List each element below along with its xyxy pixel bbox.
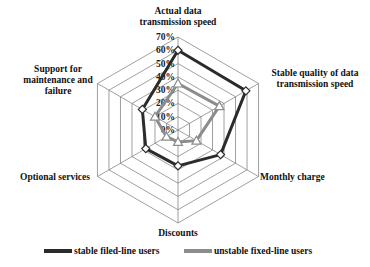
axis-label-line: maintenance and (18, 75, 98, 86)
axis-label-monthly-charge: Monthly charge (260, 172, 340, 183)
svg-text:60%: 60% (156, 45, 175, 55)
axis-label-line: transmission speed (128, 17, 228, 28)
axis-label-discounts: Discounts (148, 228, 208, 239)
axis-label-line: failure (18, 86, 98, 97)
legend: stable filed-line users unstable fixed-l… (0, 246, 370, 260)
axis-label-line: Monthly charge (260, 172, 340, 183)
axis-label-line: Support for (18, 64, 98, 75)
legend-item-stable: stable filed-line users (44, 246, 160, 256)
axis-label-actual-speed: Actual data transmission speed (128, 6, 228, 28)
legend-item-unstable: unstable fixed-line users (184, 246, 312, 256)
axis-label-line: transmission speed (260, 79, 370, 90)
axis-label-optional-services: Optional services (20, 172, 100, 183)
data-point-marker (217, 151, 225, 159)
svg-text:70%: 70% (156, 32, 175, 42)
radar-grid (97, 37, 258, 223)
axis-label-line: Actual data (128, 6, 228, 17)
axis-label-line: Stable quality of data (260, 68, 370, 79)
axis-label-line: Optional services (20, 172, 100, 183)
axis-label-line: Discounts (148, 228, 208, 239)
axis-label-stable-quality: Stable quality of data transmission spee… (260, 68, 370, 90)
legend-label: stable filed-line users (74, 246, 160, 256)
legend-line-icon (44, 249, 72, 253)
legend-line-icon (184, 249, 212, 253)
axis-label-support: Support for maintenance and failure (18, 64, 98, 97)
legend-label: unstable fixed-line users (214, 246, 312, 256)
radar-chart: 0%10%20%30%40%50%60%70% (0, 0, 370, 267)
